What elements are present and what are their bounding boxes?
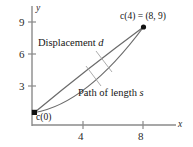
- displacement-annotation: Displacement d: [38, 38, 104, 49]
- path-leader-line: [86, 66, 101, 86]
- figure-canvas: [0, 0, 193, 147]
- x-tick-label-8: 8: [138, 131, 144, 142]
- path-annotation-symbol: s: [140, 87, 144, 98]
- end-point-label: c(4) = (8, 9): [120, 12, 166, 22]
- y-tick-label-9: 9: [19, 17, 25, 28]
- y-tick-label-3: 3: [19, 81, 25, 92]
- x-tick-label-4: 4: [78, 131, 84, 142]
- y-axis-label: y: [36, 4, 40, 14]
- path-annotation-text: Path of length: [78, 87, 140, 98]
- end-point-marker: [141, 24, 146, 29]
- start-point-label: c(0): [36, 113, 51, 123]
- displacement-annotation-symbol: d: [98, 37, 103, 48]
- path-annotation: Path of length s: [78, 88, 144, 99]
- y-tick-label-6: 6: [19, 49, 25, 60]
- displacement-annotation-text: Displacement: [38, 37, 98, 48]
- x-axis-label: x: [178, 120, 182, 130]
- figure-container: y x 9 6 3 4 8 Displacement d Path of len…: [0, 0, 193, 147]
